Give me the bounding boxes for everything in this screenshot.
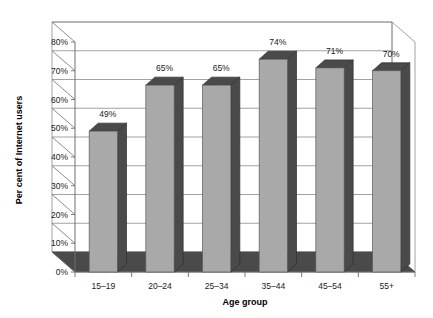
bar-value-label: 74% — [269, 37, 286, 47]
y-tick-label: 30% — [51, 181, 68, 191]
y-tick-label: 10% — [51, 238, 68, 248]
bar-side-face — [118, 123, 127, 272]
bar-front-face — [259, 59, 287, 272]
x-axis-title: Age group — [223, 297, 268, 307]
bar-value-label: 49% — [99, 109, 116, 119]
x-tick-label: 25–34 — [205, 281, 229, 291]
bar-1[interactable] — [89, 123, 126, 272]
bar-side-face — [344, 60, 353, 272]
y-tick-label: 40% — [51, 152, 68, 162]
bar-value-label: 65% — [213, 63, 230, 73]
bar-front-face — [373, 71, 401, 272]
bar-front-face — [316, 68, 344, 272]
bar-side-face — [401, 63, 410, 272]
bar-side-face — [288, 51, 297, 272]
y-tick-label: 0% — [56, 267, 69, 277]
bar-2[interactable] — [146, 77, 183, 272]
bar-value-label: 70% — [383, 49, 400, 59]
y-tick-label: 80% — [51, 37, 68, 47]
y-tick-label: 70% — [51, 66, 68, 76]
bar-side-face — [231, 77, 240, 272]
bar-6[interactable] — [373, 63, 410, 272]
bar-3[interactable] — [203, 77, 240, 272]
y-tick-label: 60% — [51, 95, 68, 105]
bar-4[interactable] — [259, 51, 296, 272]
bar-chart-svg: 0%10%20%30%40%50%60%70%80% 15–1920–2425–… — [0, 0, 433, 318]
x-tick-label: 15–19 — [92, 281, 116, 291]
bar-front-face — [89, 131, 117, 272]
bar-value-label: 71% — [326, 46, 343, 56]
y-axis-title: Per cent of Internet users — [14, 96, 24, 205]
x-tick-label: 55+ — [379, 281, 393, 291]
bar-front-face — [146, 85, 174, 272]
y-tick-label: 50% — [51, 123, 68, 133]
x-tick-label: 35–44 — [262, 281, 286, 291]
bar-front-face — [203, 85, 231, 272]
bar-value-label: 65% — [156, 63, 173, 73]
x-tick-label: 45–54 — [318, 281, 342, 291]
x-tick-label: 20–24 — [148, 281, 172, 291]
chart-container: 0%10%20%30%40%50%60%70%80% 15–1920–2425–… — [0, 0, 433, 318]
y-tick-label: 20% — [51, 210, 68, 220]
y-tick-labels-group: 0%10%20%30%40%50%60%70%80% — [51, 37, 68, 277]
bar-5[interactable] — [316, 60, 353, 272]
bar-side-face — [174, 77, 183, 272]
